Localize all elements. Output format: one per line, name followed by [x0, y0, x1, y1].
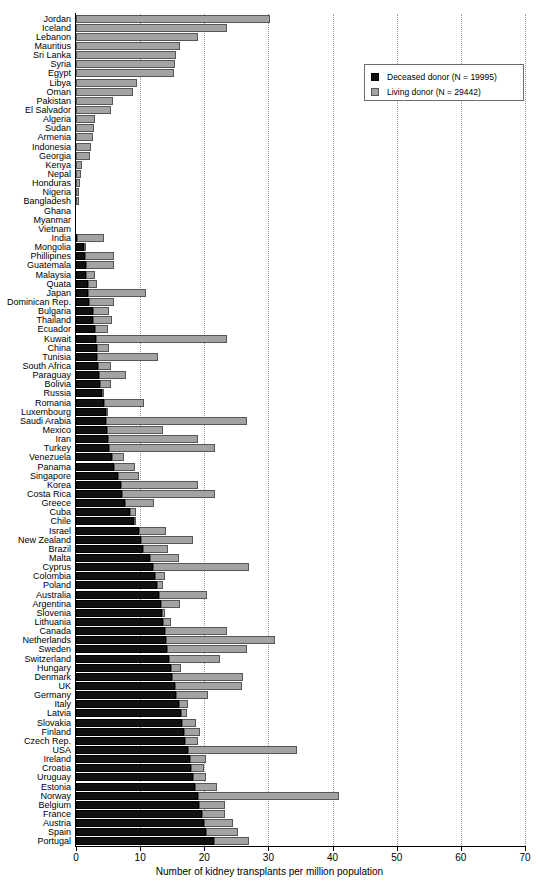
x-tick-label-60: 60: [455, 852, 466, 863]
bar-row: Sudan: [76, 124, 525, 132]
bar-segment-living: [199, 801, 225, 809]
bar-segment-living: [93, 316, 112, 324]
bar-segment-deceased: [76, 581, 157, 589]
bar-segment-deceased: [76, 837, 214, 845]
legend-item-deceased: Deceased donor (N = 19995): [371, 70, 517, 83]
bar-segment-deceased: [76, 435, 108, 443]
legend-swatch-living-icon: [371, 88, 379, 96]
bar-row: Cuba: [76, 508, 525, 516]
bar-segment-living: [134, 517, 136, 525]
bar-segment-deceased: [76, 307, 93, 315]
bar-segment-living: [179, 700, 189, 708]
bar-segment-living: [88, 280, 98, 288]
bar-segment-living: [99, 371, 126, 379]
bar-segment-living: [162, 609, 165, 617]
bar-segment-living: [188, 746, 297, 754]
bar-segment-living: [76, 124, 94, 132]
bar-row: Spain: [76, 828, 525, 836]
bar-segment-living: [176, 691, 208, 699]
bar-segment-living: [112, 453, 124, 461]
bar-row: Romania: [76, 399, 525, 407]
bar-segment-living: [109, 444, 215, 452]
bar-segment-deceased: [76, 719, 182, 727]
bar-segment-living: [191, 764, 204, 772]
bar-segment-deceased: [76, 252, 85, 260]
bar-row: Malta: [76, 554, 525, 562]
bar-segment-deceased: [76, 792, 198, 800]
bar-segment-living: [76, 79, 137, 87]
bar-segment-living: [190, 755, 206, 763]
bar-segment-deceased: [76, 609, 162, 617]
bar-row: Phillipines: [76, 252, 525, 260]
bar-segment-deceased: [76, 764, 191, 772]
bar-segment-living: [93, 307, 109, 315]
bar-row: Hungary: [76, 664, 525, 672]
bar-segment-deceased: [76, 408, 106, 416]
bar-row: Venezuela: [76, 453, 525, 461]
bar-row: Russia: [76, 389, 525, 397]
x-tick-0: [76, 846, 77, 851]
bar-row: Ireland: [76, 755, 525, 763]
bar-row: Sri Lanka: [76, 51, 525, 59]
bar-segment-living: [76, 42, 180, 50]
bar-segment-living: [108, 435, 198, 443]
bar-row: Belgium: [76, 801, 525, 809]
bar-segment-living: [95, 325, 108, 333]
bar-row: India: [76, 234, 525, 242]
bar-segment-living: [139, 527, 166, 535]
bar-segment-living: [76, 15, 270, 23]
bar-segment-deceased: [76, 554, 150, 562]
bar-row: Georgia: [76, 152, 525, 160]
bar-segment-living: [157, 581, 163, 589]
bar-row: South Africa: [76, 362, 525, 370]
bar-segment-living: [97, 344, 110, 352]
bar-segment-deceased: [76, 591, 159, 599]
bar-segment-deceased: [76, 810, 202, 818]
bar-segment-deceased: [76, 828, 206, 836]
bar-row: Latvia: [76, 709, 525, 717]
bar-segment-deceased: [76, 709, 181, 717]
bar-segment-living: [181, 709, 187, 717]
bar-segment-deceased: [76, 371, 99, 379]
bar-segment-living: [102, 389, 104, 397]
bar-segment-living: [76, 106, 111, 114]
bar-segment-deceased: [76, 618, 163, 626]
bar-segment-deceased: [76, 682, 175, 690]
bar-row: Chile: [76, 517, 525, 525]
x-tick-30: [268, 846, 269, 851]
bar-segment-deceased: [76, 335, 96, 343]
bar-row: Costa Rica: [76, 490, 525, 498]
bar-segment-living: [206, 828, 238, 836]
bar-segment-deceased: [76, 801, 199, 809]
bar-row: Indonesia: [76, 143, 525, 151]
bar-row: Algeria: [76, 115, 525, 123]
bar-segment-deceased: [76, 261, 86, 269]
bar-segment-living: [195, 783, 217, 791]
x-axis-title: Number of kidney transplants per million…: [0, 866, 539, 877]
bar-row: Singapore: [76, 472, 525, 480]
bar-segment-living: [76, 51, 176, 59]
bar-row: Quata: [76, 280, 525, 288]
bar-segment-deceased: [76, 316, 93, 324]
bar-segment-living: [98, 362, 111, 370]
x-tick-60: [461, 846, 462, 851]
bar-row: Kuwait: [76, 335, 525, 343]
kidney-transplant-stacked-bar-chart: JordanIcelandLebanonMauritiusSri LankaSy…: [0, 0, 539, 886]
bar-segment-living: [185, 737, 198, 745]
bar-segment-deceased: [76, 463, 114, 471]
bar-segment-living: [100, 380, 110, 388]
bar-segment-deceased: [76, 289, 88, 297]
x-tick-10: [140, 846, 141, 851]
bar-row: Switzerland: [76, 655, 525, 663]
bar-row: USA: [76, 746, 525, 754]
bar-row: Guatemala: [76, 261, 525, 269]
plot-area: JordanIcelandLebanonMauritiusSri LankaSy…: [76, 14, 525, 846]
bar-segment-living: [88, 289, 146, 297]
gridline-70: [525, 14, 527, 846]
bar-row: Tunisia: [76, 353, 525, 361]
bar-segment-deceased: [76, 271, 86, 279]
bar-segment-living: [76, 188, 79, 196]
x-tick-label-40: 40: [327, 852, 338, 863]
bar-row: Portugal: [76, 837, 525, 845]
bar-segment-deceased: [76, 655, 169, 663]
